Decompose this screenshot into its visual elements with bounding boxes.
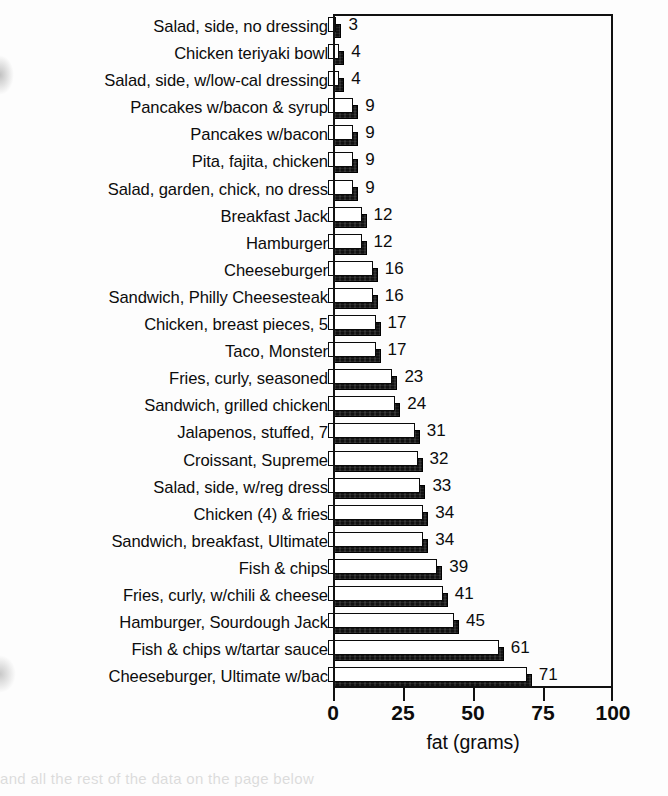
chart-row: Pancakes w/bacon & syrup9 xyxy=(0,95,668,122)
chart-row: Hamburger12 xyxy=(0,231,668,258)
bar-face xyxy=(328,71,339,86)
chart-row: Breakfast Jack12 xyxy=(0,204,668,231)
x-tick-label: 50 xyxy=(461,700,484,725)
bar-face xyxy=(328,234,362,249)
x-tick-label: 75 xyxy=(531,700,554,725)
bar-value-label: 71 xyxy=(539,664,558,685)
chart-row: Chicken teriyaki bowl4 xyxy=(0,41,668,68)
category-label: Croissant, Supreme xyxy=(0,448,328,473)
bar-value-label: 9 xyxy=(365,177,374,198)
chart-row: Salad, garden, chick, no dress9 xyxy=(0,177,668,204)
chart-row: Cheeseburger16 xyxy=(0,258,668,285)
category-label: Sandwich, Philly Cheesesteak xyxy=(0,285,328,310)
category-label: Chicken, breast pieces, 5 xyxy=(0,312,328,337)
bar-face xyxy=(328,288,373,303)
bar xyxy=(328,70,345,85)
category-label: Fish & chips xyxy=(0,556,328,581)
bar xyxy=(328,612,460,627)
bar-track: 17 xyxy=(328,339,668,366)
bar-track: 4 xyxy=(328,68,668,95)
bar-face xyxy=(328,261,373,276)
bar-track: 34 xyxy=(328,529,668,556)
bar xyxy=(328,179,359,194)
category-label: Jalapenos, stuffed, 7 xyxy=(0,420,328,445)
bar-face xyxy=(328,180,353,195)
bar-track: 4 xyxy=(328,41,668,68)
bar-face xyxy=(328,369,392,384)
category-label: Taco, Monster xyxy=(0,339,328,364)
category-label: Fish & chips w/tartar sauce xyxy=(0,637,328,662)
bar-value-label: 34 xyxy=(435,502,454,523)
bar xyxy=(328,287,379,302)
bar-track: 31 xyxy=(328,420,668,447)
chart-row: Sandwich, breakfast, Ultimate34 xyxy=(0,529,668,556)
bar-face xyxy=(328,396,395,411)
chart-row: Fish & chips w/tartar sauce61 xyxy=(0,637,668,664)
category-label: Fries, curly, seasoned xyxy=(0,366,328,391)
bar xyxy=(328,666,533,681)
bar xyxy=(328,477,426,492)
bar xyxy=(328,585,449,600)
bar-track: 45 xyxy=(328,610,668,637)
bar-value-label: 16 xyxy=(385,285,404,306)
chart-row: Pancakes w/bacon9 xyxy=(0,122,668,149)
chart-row: Jalapenos, stuffed, 731 xyxy=(0,420,668,447)
chart-rows: Salad, side, no dressing3Chicken teriyak… xyxy=(0,14,668,691)
bar-face xyxy=(328,44,339,59)
chart-row: Hamburger, Sourdough Jack45 xyxy=(0,610,668,637)
bar xyxy=(328,97,359,112)
x-tick-label: 0 xyxy=(327,700,339,725)
category-label: Chicken teriyaki bowl xyxy=(0,41,328,66)
bar-value-label: 17 xyxy=(388,339,407,360)
chart-row: Chicken (4) & fries34 xyxy=(0,502,668,529)
bar-value-label: 4 xyxy=(351,68,360,89)
bar-face xyxy=(328,667,527,682)
x-axis-title: fat (grams) xyxy=(333,731,613,754)
bar xyxy=(328,450,424,465)
bar-value-label: 12 xyxy=(374,231,393,252)
bar-track: 3 xyxy=(328,14,668,41)
bar xyxy=(328,43,345,58)
bar-face xyxy=(328,451,418,466)
chart-row: Fries, curly, w/chili & cheese41 xyxy=(0,583,668,610)
bar-face xyxy=(328,613,454,628)
bar-track: 61 xyxy=(328,637,668,664)
bar-track: 33 xyxy=(328,475,668,502)
bar-value-label: 45 xyxy=(466,610,485,631)
bar-value-label: 17 xyxy=(388,312,407,333)
bar xyxy=(328,639,505,654)
bar-face xyxy=(328,586,443,601)
bar-track: 32 xyxy=(328,448,668,475)
bar-value-label: 34 xyxy=(435,529,454,550)
bar xyxy=(328,368,398,383)
bar-value-label: 9 xyxy=(365,95,374,116)
bar-value-label: 3 xyxy=(348,14,357,35)
page-bleed-text: and all the rest of the data on the page… xyxy=(0,770,668,796)
bar-track: 12 xyxy=(328,231,668,258)
x-tick-label: 25 xyxy=(391,700,414,725)
bar xyxy=(328,206,368,221)
category-label: Salad, side, w/low-cal dressing xyxy=(0,68,328,93)
category-label: Hamburger xyxy=(0,231,328,256)
bar-face xyxy=(328,17,336,32)
bar-track: 12 xyxy=(328,204,668,231)
bar-track: 24 xyxy=(328,393,668,420)
bar-value-label: 12 xyxy=(374,204,393,225)
bar xyxy=(328,151,359,166)
bar xyxy=(328,16,342,31)
bar-face xyxy=(328,207,362,222)
bar-face xyxy=(328,478,420,493)
chart-row: Sandwich, Philly Cheesesteak16 xyxy=(0,285,668,312)
bar xyxy=(328,395,401,410)
bar-track: 9 xyxy=(328,177,668,204)
bar-value-label: 24 xyxy=(407,393,426,414)
category-label: Breakfast Jack xyxy=(0,204,328,229)
bar-face xyxy=(328,532,423,547)
bar-track: 9 xyxy=(328,149,668,176)
chart-row: Fries, curly, seasoned23 xyxy=(0,366,668,393)
chart-row: Fish & chips39 xyxy=(0,556,668,583)
bar-track: 9 xyxy=(328,122,668,149)
bar xyxy=(328,422,421,437)
bar-track: 9 xyxy=(328,95,668,122)
chart-row: Sandwich, grilled chicken24 xyxy=(0,393,668,420)
